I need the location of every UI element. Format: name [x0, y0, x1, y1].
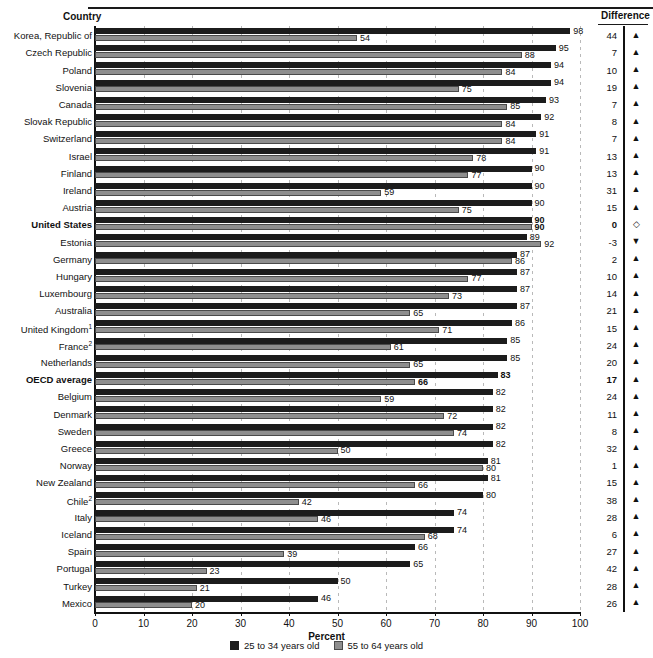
difference-value: 11	[583, 409, 617, 420]
difference-value: 7	[583, 99, 617, 110]
bar-young	[95, 80, 551, 86]
bar-value-old: 59	[384, 189, 394, 196]
tick-10	[144, 612, 145, 616]
bar-old	[95, 482, 415, 488]
bar-young	[95, 406, 493, 412]
country-label: Canada	[59, 99, 92, 110]
legend-item-young: 25 to 34 years old	[230, 640, 320, 651]
tick-label-50: 50	[332, 618, 343, 629]
bar-value-old: 80	[486, 465, 496, 472]
bar-young	[95, 252, 517, 258]
difference-value: 8	[583, 116, 617, 127]
bar-young	[95, 217, 532, 223]
legend-label-old: 55 to 64 years old	[348, 640, 424, 651]
bar-young	[95, 114, 541, 120]
difference-trend-up-icon: ▲	[628, 151, 644, 160]
bar-value-young: 87	[520, 269, 530, 276]
bar-old	[95, 207, 459, 213]
difference-value: 38	[583, 495, 617, 506]
difference-trend-up-icon: ▲	[628, 443, 644, 452]
bar-value-young: 82	[496, 441, 506, 448]
difference-value: 42	[583, 563, 617, 574]
tick-label-40: 40	[283, 618, 294, 629]
difference-value: 6	[583, 529, 617, 540]
tick-label-30: 30	[235, 618, 246, 629]
tick-label-90: 90	[526, 618, 537, 629]
bar-value-young: 66	[418, 544, 428, 551]
bar-value-young: 90	[535, 183, 545, 190]
bar-value-old: 85	[510, 103, 520, 110]
tick-label-80: 80	[477, 618, 488, 629]
bar-young	[95, 510, 454, 516]
bar-young	[95, 458, 488, 464]
bar-value-old: 77	[471, 275, 481, 282]
difference-trend-up-icon: ▲	[628, 478, 644, 487]
country-label: Australia	[55, 305, 92, 316]
country-label: United States	[31, 219, 92, 230]
difference-value: 13	[583, 151, 617, 162]
bar-old	[95, 241, 541, 247]
bar-young	[95, 596, 318, 602]
difference-value: 0	[583, 219, 617, 230]
tick-label-20: 20	[186, 618, 197, 629]
bar-value-young: 80	[486, 492, 496, 499]
bar-value-young: 87	[520, 286, 530, 293]
bar-young	[95, 303, 517, 309]
difference-trend-up-icon: ▲	[628, 271, 644, 280]
bar-value-young: 93	[549, 97, 559, 104]
bar-value-old: 74	[457, 430, 467, 437]
difference-value: 15	[583, 477, 617, 488]
bar-value-old: 39	[287, 551, 297, 558]
bar-young	[95, 475, 488, 481]
difference-trend-up-icon: ▲	[628, 323, 644, 332]
country-label: Sweden	[58, 426, 92, 437]
bar-old	[95, 224, 532, 230]
bar-young	[95, 166, 532, 172]
difference-trend-up-icon: ▲	[628, 581, 644, 590]
legend-swatch-young	[230, 641, 239, 650]
bar-young	[95, 62, 551, 68]
country-label: Spain	[68, 546, 92, 557]
bar-value-old: 90	[535, 224, 545, 231]
difference-value: 15	[583, 323, 617, 334]
country-label: Austria	[62, 202, 92, 213]
bar-young	[95, 544, 415, 550]
bar-young	[95, 338, 507, 344]
difference-header-rule	[598, 24, 648, 25]
bar-value-old: 54	[360, 35, 370, 42]
bar-value-young: 90	[535, 200, 545, 207]
tick-70	[435, 612, 436, 616]
difference-value: 17	[583, 374, 617, 385]
bar-old	[95, 104, 507, 110]
country-label: Poland	[62, 65, 92, 76]
bar-value-young: 85	[510, 337, 520, 344]
bar-value-young: 81	[491, 475, 501, 482]
difference-value: 2	[583, 254, 617, 265]
bar-value-old: 71	[442, 327, 452, 334]
bar-old	[95, 430, 454, 436]
bar-value-old: 78	[476, 155, 486, 162]
country-label: Italy	[75, 512, 92, 523]
bar-old	[95, 344, 391, 350]
bar-old	[95, 327, 439, 333]
bar-young	[95, 269, 517, 275]
bar-young	[95, 372, 498, 378]
difference-value: 7	[583, 133, 617, 144]
country-label: Netherlands	[41, 357, 92, 368]
country-label: Mexico	[62, 598, 92, 609]
bar-old	[95, 155, 473, 161]
difference-value: 14	[583, 288, 617, 299]
difference-trend-up-icon: ▲	[628, 461, 644, 470]
country-label: Belgium	[58, 391, 92, 402]
difference-value: 24	[583, 391, 617, 402]
country-label: Estonia	[60, 237, 92, 248]
tick-60	[386, 612, 387, 616]
difference-value: 24	[583, 340, 617, 351]
difference-trend-up-icon: ▲	[628, 357, 644, 366]
bar-old	[95, 602, 192, 608]
bar-young	[95, 148, 536, 154]
country-label: Greece	[61, 443, 92, 454]
bar-old	[95, 190, 381, 196]
difference-trend-up-icon: ▲	[628, 409, 644, 418]
bar-value-young: 65	[413, 561, 423, 568]
